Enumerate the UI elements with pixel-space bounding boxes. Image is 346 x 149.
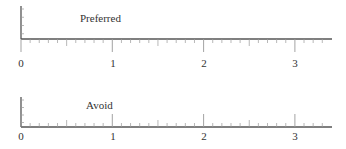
x-tick-label: 0: [18, 57, 24, 69]
x-tick-label: 1: [110, 130, 116, 142]
x-axis-ticks: [21, 39, 322, 52]
x-tick-labels: 0 1 2 3: [18, 130, 298, 142]
panel-title: Preferred: [80, 12, 121, 24]
x-tick-label: 0: [18, 130, 24, 142]
number-line-figure: Preferred 0 1 2 3 Avoid 0 1 2 3: [0, 0, 346, 149]
x-axis-ticks: [21, 114, 322, 127]
x-tick-label: 2: [201, 130, 207, 142]
panel-preferred: Preferred 0 1 2 3: [18, 6, 332, 69]
panel-avoid: Avoid 0 1 2 3: [18, 97, 332, 142]
x-tick-label: 3: [292, 130, 298, 142]
x-tick-labels: 0 1 2 3: [18, 57, 298, 69]
x-tick-label: 1: [110, 57, 116, 69]
panel-title: Avoid: [86, 99, 113, 111]
x-tick-label: 2: [201, 57, 207, 69]
x-tick-label: 3: [292, 57, 298, 69]
